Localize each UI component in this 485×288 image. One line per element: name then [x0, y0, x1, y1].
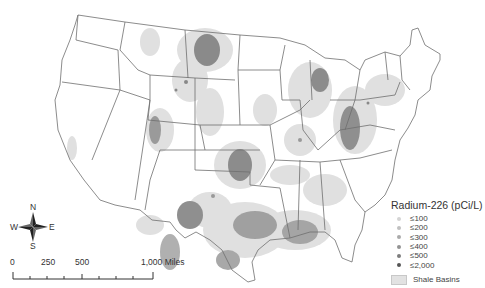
- legend-item-100: ≤100: [391, 214, 485, 223]
- legend-item-200: ≤200: [391, 223, 485, 232]
- legend-label: ≤400: [410, 242, 428, 251]
- compass-south-label: S: [30, 241, 36, 251]
- legend-item-2000: ≤2,000: [391, 260, 485, 269]
- legend-label: ≤100: [410, 214, 428, 223]
- radium-map: N S W E 0 250 500 1,000 Miles Radium-226…: [0, 0, 485, 288]
- legend-title: Radium-226 (pCi/L): [391, 199, 485, 211]
- legend-dot-icon: [397, 254, 401, 258]
- legend-dot-icon: [397, 235, 401, 239]
- map-legend: Radium-226 (pCi/L) ≤100 ≤200 ≤300 ≤400 ≤…: [391, 199, 485, 285]
- legend-dot-icon: [397, 263, 401, 267]
- compass-east-label: E: [49, 222, 55, 232]
- legend-label: ≤300: [410, 233, 428, 242]
- legend-label: ≤2,000: [410, 261, 434, 270]
- legend-item-500: ≤500: [391, 251, 485, 260]
- legend-dot-icon: [397, 226, 401, 230]
- legend-dot-icon: [397, 217, 401, 221]
- legend-label: ≤200: [410, 223, 428, 232]
- legend-item-400: ≤400: [391, 242, 485, 251]
- compass-north-label: N: [30, 202, 36, 212]
- legend-dot-icon: [397, 245, 401, 249]
- cropped-caption-strip: [0, 281, 485, 288]
- north-arrow-compass: N S W E: [8, 202, 58, 252]
- compass-west-label: W: [10, 222, 18, 232]
- legend-label: ≤500: [410, 251, 428, 260]
- legend-item-300: ≤300: [391, 233, 485, 242]
